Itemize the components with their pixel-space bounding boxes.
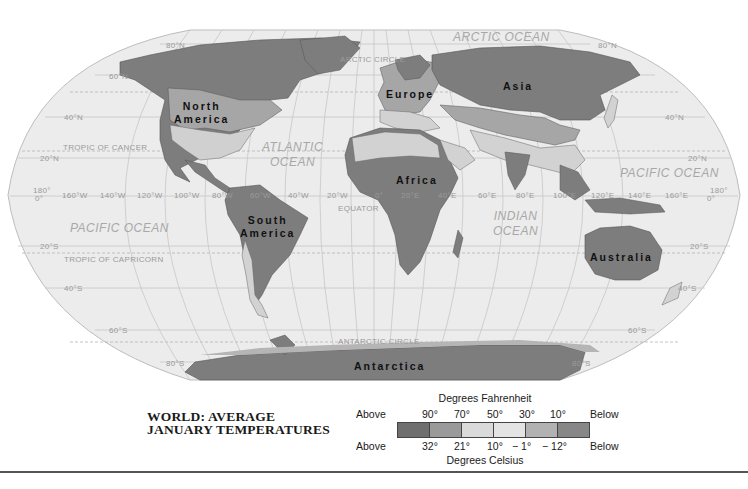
bottom-rule <box>0 471 748 473</box>
tropic-of-cancer-label: TROPIC OF CANCER <box>63 143 147 152</box>
pacific-ocean-east-label: PACIFIC OCEAN <box>620 166 719 181</box>
lat-80s-west: 80°S <box>166 359 185 368</box>
lon-120w: 120°W <box>137 191 163 200</box>
lon-160e: 160°E <box>665 191 688 200</box>
atlantic-ocean-line2: OCEAN <box>262 155 323 170</box>
lon-40e: 40°E <box>438 191 457 200</box>
lon-80e: 80°E <box>516 191 535 200</box>
south-america-label: South America <box>240 214 295 240</box>
celsius-tick: 10° <box>487 440 503 452</box>
lon-40w: 40°W <box>288 191 309 200</box>
lat-20s-west: 20°S <box>40 242 59 251</box>
legend-swatch-below-neg12c <box>558 423 589 437</box>
legend-swatch-neg12-neg1c <box>526 423 558 437</box>
temperature-legend: Degrees Fahrenheit Above 90° 70° 50° 30°… <box>350 390 620 470</box>
fahrenheit-below: Below <box>590 408 619 420</box>
lat-20n-east: 20°N <box>688 154 707 163</box>
asia-label: Asia <box>503 80 533 93</box>
antarctic-circle-label: ANTARCTIC CIRCLE <box>338 337 420 346</box>
north-america-line2: America <box>174 113 229 126</box>
fahrenheit-tick: 10° <box>550 408 566 420</box>
lon-140w: 140°W <box>100 191 126 200</box>
fahrenheit-tick: 90° <box>422 408 438 420</box>
fahrenheit-tick: 70° <box>454 408 470 420</box>
fahrenheit-tick: 50° <box>487 408 503 420</box>
lon-0: 0° <box>375 191 383 200</box>
lat-60n-west: 60°N <box>109 72 128 81</box>
celsius-tick: 21° <box>454 440 470 452</box>
celsius-row: Above 32° 21° 10° − 1° − 12° Below <box>350 440 620 454</box>
north-america-line1: North <box>174 100 229 113</box>
lat-60s-west: 60°S <box>109 326 128 335</box>
lat-40s-west: 40°S <box>64 284 83 293</box>
legend-swatch-10-21c <box>462 423 494 437</box>
lat-40n-west: 40°N <box>64 113 83 122</box>
lat-20s-east: 20°S <box>690 242 709 251</box>
lon-160w: 160°W <box>62 191 88 200</box>
celsius-caption: Degrees Celsius <box>350 454 620 466</box>
atlantic-ocean-line1: ATLANTIC <box>262 140 323 155</box>
fahrenheit-caption: Degrees Fahrenheit <box>350 392 620 404</box>
lat-40s-east: 40°S <box>678 284 697 293</box>
fahrenheit-tick: 30° <box>519 408 535 420</box>
tropic-of-capricorn-label: TROPIC OF CAPRICORN <box>64 255 163 264</box>
lon-20e: 20°E <box>401 191 420 200</box>
africa-label: Africa <box>396 174 438 187</box>
indian-ocean-line2: OCEAN <box>493 224 538 239</box>
south-america-line1: South <box>240 214 295 227</box>
legend-swatch-21-32c <box>430 423 462 437</box>
celsius-tick: − 1° <box>512 440 531 452</box>
indian-ocean-line1: INDIAN <box>493 209 538 224</box>
pacific-ocean-west-label: PACIFIC OCEAN <box>70 221 169 236</box>
lon-60e: 60°E <box>478 191 497 200</box>
lat-0-east: 0° <box>707 194 715 203</box>
lon-140e: 140°E <box>628 191 651 200</box>
lat-40n-east: 40°N <box>665 113 684 122</box>
lat-20n-west: 20°N <box>40 154 59 163</box>
legend-swatch-above-32c <box>398 423 430 437</box>
lon-60w: 60°W <box>250 191 271 200</box>
lon-100e: 100°E <box>553 191 576 200</box>
lat-60s-east: 60°S <box>628 326 647 335</box>
north-america-label: North America <box>174 100 229 126</box>
lat-80n-east: 80°N <box>598 41 617 50</box>
atlantic-ocean-label: ATLANTIC OCEAN <box>262 140 323 170</box>
australia-label: Australia <box>590 251 653 264</box>
lat-80n-west: 80°N <box>166 41 185 50</box>
equator-label: EQUATOR <box>338 204 379 213</box>
lat-0-west: 0° <box>35 194 43 203</box>
world-map: 80°N 60°N 40°N 20°N 180° 0° 20°S 40°S 60… <box>0 0 748 390</box>
celsius-tick: − 12° <box>542 440 567 452</box>
map-title: WORLD: AVERAGE JANUARY TEMPERATURES <box>147 410 330 436</box>
lon-20w: 20°W <box>327 191 348 200</box>
europe-label: Europe <box>386 88 434 101</box>
lon-100w: 100°W <box>174 191 200 200</box>
fahrenheit-above: Above <box>356 408 386 420</box>
arctic-circle-label: ARCTIC CIRCLE <box>340 55 405 64</box>
map-title-line2: JANUARY TEMPERATURES <box>147 423 330 436</box>
fahrenheit-row: Above 90° 70° 50° 30° 10° Below <box>350 408 620 422</box>
lon-120e: 120°E <box>591 191 614 200</box>
lat-80s-east: 80°S <box>572 359 591 368</box>
south-america-line2: America <box>240 227 295 240</box>
celsius-tick: 32° <box>422 440 438 452</box>
lon-80w: 80°W <box>212 191 233 200</box>
celsius-below: Below <box>590 440 619 452</box>
indian-ocean-label: INDIAN OCEAN <box>493 209 538 239</box>
celsius-above: Above <box>356 440 386 452</box>
antarctica-label: Antarctica <box>354 360 425 373</box>
legend-swatch-neg1-10c <box>494 423 526 437</box>
legend-color-bar <box>397 422 590 438</box>
arctic-ocean-label: ARCTIC OCEAN <box>453 30 550 45</box>
